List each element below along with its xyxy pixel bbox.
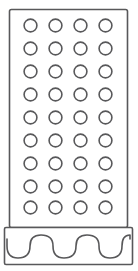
hole-r2-c4 [99, 42, 112, 55]
hole-r9-c4 [99, 201, 112, 214]
hole-r1-c1 [24, 19, 37, 32]
hole-r2-c3 [74, 42, 87, 55]
hole-r8-c2 [49, 180, 62, 193]
hole-r6-c3 [74, 134, 87, 147]
hole-r1-c4 [99, 19, 112, 32]
hole-r1-c3 [74, 19, 87, 32]
hole-r4-c2 [49, 88, 62, 101]
hole-r2-c1 [24, 42, 37, 55]
hole-r8-c3 [74, 180, 87, 193]
hole-r7-c4 [99, 157, 112, 170]
hole-r8-c1 [24, 180, 37, 193]
hole-r6-c1 [24, 134, 37, 147]
hole-r5-c4 [99, 111, 112, 124]
hole-r4-c4 [99, 88, 112, 101]
hole-r5-c1 [24, 111, 37, 124]
hole-r3-c4 [99, 65, 112, 78]
base-plate [5, 228, 133, 265]
hole-r7-c1 [24, 157, 37, 170]
hole-r4-c1 [24, 88, 37, 101]
hole-r2-c2 [49, 42, 62, 55]
hole-r6-c2 [49, 134, 62, 147]
base-group [5, 228, 133, 265]
figure-root: Perforated Panel Icon Perforated panel w… [0, 0, 138, 271]
hole-r8-c4 [99, 180, 112, 193]
hole-r1-c2 [49, 19, 62, 32]
hole-r6-c4 [99, 134, 112, 147]
hole-r5-c3 [74, 111, 87, 124]
hole-r9-c2 [49, 201, 62, 214]
hole-r4-c3 [74, 88, 87, 101]
hole-r9-c1 [24, 201, 37, 214]
hole-r3-c3 [74, 65, 87, 78]
hole-r3-c1 [24, 65, 37, 78]
hole-r5-c2 [49, 111, 62, 124]
hole-r9-c3 [74, 201, 87, 214]
hole-r3-c2 [49, 65, 62, 78]
hole-r7-c2 [49, 157, 62, 170]
line-art-figure: Perforated Panel Icon Perforated panel w… [0, 0, 138, 271]
hole-r7-c3 [74, 157, 87, 170]
